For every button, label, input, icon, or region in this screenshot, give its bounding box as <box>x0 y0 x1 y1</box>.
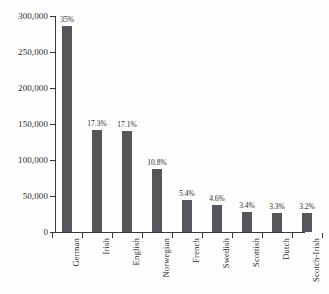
y-axis-tick-label: 0 <box>43 227 48 237</box>
bar <box>242 212 252 232</box>
bar-value-label: 3.2% <box>299 202 315 211</box>
x-axis-tick-mark <box>52 233 53 238</box>
category-label: Irish <box>101 238 111 255</box>
bar <box>122 131 132 232</box>
y-axis-tick-label: 150,000 <box>18 119 48 129</box>
bar-value-label: 10.8% <box>147 158 166 167</box>
bar-value-label: 3.4% <box>239 201 255 210</box>
plot-area: 35%17.3%17.1%10.8%5.4%4.6%3.4%3.3%3.2% <box>55 16 305 232</box>
bar <box>302 213 312 232</box>
y-axis-tick-label: 300,000 <box>18 11 48 21</box>
bar <box>272 213 282 232</box>
y-axis-tick-label: 50,000 <box>23 191 48 201</box>
y-axis-tick-labels: 050,000100,000150,000200,000250,000300,0… <box>0 0 48 294</box>
y-axis-tick-label: 200,000 <box>18 83 48 93</box>
bar <box>92 130 102 232</box>
y-axis-tick-label: 250,000 <box>18 47 48 57</box>
bar <box>182 200 192 232</box>
category-label: French <box>191 238 201 263</box>
bar-value-label: 4.6% <box>209 194 225 203</box>
y-axis-tick-mark <box>50 232 56 233</box>
bar-value-label: 5.4% <box>179 189 195 198</box>
category-label: Scotch-Irish <box>311 238 321 282</box>
category-label: German <box>71 238 81 267</box>
bar-chart: 050,000100,000150,000200,000250,000300,0… <box>0 0 329 294</box>
category-label: Norwegian <box>161 238 171 278</box>
category-label: English <box>131 238 141 265</box>
category-labels: GermanIrishEnglishNorwegianFrenchSwedish… <box>55 238 305 294</box>
bar <box>212 205 222 232</box>
bar-value-label: 17.1% <box>117 120 136 129</box>
bar <box>62 26 72 232</box>
bar-value-label: 3.3% <box>269 202 285 211</box>
x-axis-line <box>55 232 305 233</box>
category-label: Swedish <box>221 238 231 268</box>
category-label: Scottish <box>251 238 261 267</box>
x-axis-tick-mark <box>322 233 323 238</box>
bar-value-label: 35% <box>60 15 74 24</box>
bar <box>152 169 162 232</box>
bar-value-label: 17.3% <box>87 119 106 128</box>
category-label: Dutch <box>281 238 291 260</box>
y-axis-tick-label: 100,000 <box>18 155 48 165</box>
